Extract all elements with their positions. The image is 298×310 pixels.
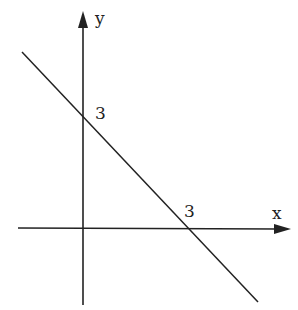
x-axis-label: x	[272, 205, 282, 222]
y-axis-arrow-icon	[78, 11, 88, 28]
y-intercept-label: 3	[95, 105, 106, 122]
x-axis-arrow-icon	[274, 224, 291, 234]
x-axis	[18, 228, 278, 229]
plot-canvas	[0, 0, 298, 310]
coordinate-plot: y x 3 3	[0, 0, 298, 310]
x-intercept-label: 3	[184, 203, 195, 220]
plotted-line	[22, 52, 258, 302]
y-axis-label: y	[95, 10, 105, 27]
